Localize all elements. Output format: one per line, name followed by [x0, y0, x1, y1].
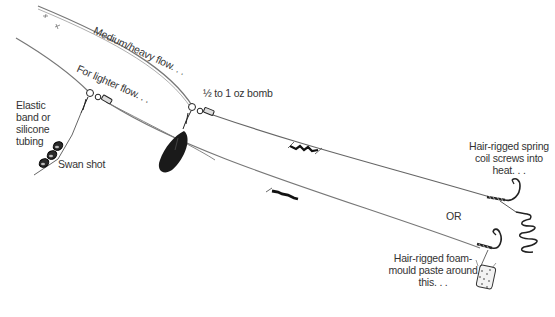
- swivel-light: [81, 90, 112, 114]
- label-elastic-line1: Elastic: [16, 99, 50, 111]
- label-foam-bait: Hair-rigged foam- mould paste around thi…: [387, 252, 479, 288]
- fishing-rig-diagram: Medium/heavy flow. . . For lighter flow.…: [0, 0, 555, 317]
- knot-light: [266, 188, 298, 199]
- label-elastic-line4: tubing: [16, 135, 50, 147]
- trace-heavy: [213, 115, 490, 197]
- label-elastic-line2: band or: [16, 111, 50, 123]
- label-or: OR: [446, 210, 461, 222]
- spring-coil: [516, 212, 537, 252]
- label-spring-line2: coil screws into: [463, 152, 555, 164]
- hook-foam: [477, 229, 501, 268]
- label-spring-line3: heat. . .: [463, 164, 555, 176]
- swivel-heavy: [183, 104, 214, 130]
- label-elastic: Elastic band or silicone tubing: [16, 99, 50, 147]
- line-knot-mark: [43, 14, 48, 18]
- label-bomb: ½ to 1 oz bomb: [203, 87, 273, 99]
- label-foam-line3: this. . .: [387, 276, 479, 288]
- label-elastic-line3: silicone: [16, 123, 50, 135]
- label-foam-line2: mould paste around: [387, 264, 479, 276]
- label-spring-line1: Hair-rigged spring: [463, 140, 555, 152]
- label-swan-shot: Swan shot: [58, 158, 105, 170]
- label-foam-line1: Hair-rigged foam-: [387, 252, 479, 264]
- hook-spring: [487, 179, 520, 212]
- label-spring-coil: Hair-rigged spring coil screws into heat…: [463, 140, 555, 176]
